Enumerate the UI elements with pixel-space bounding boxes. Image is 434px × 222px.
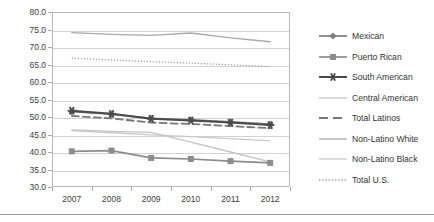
series-non-latino-black	[72, 131, 270, 141]
legend-item-non-latino-white[interactable]: Non-Latino White	[318, 129, 434, 150]
legend-swatch-icon	[318, 174, 348, 186]
legend-item-central-american[interactable]: Central American	[318, 88, 434, 109]
legend-item-mexican[interactable]: Mexican	[318, 26, 434, 47]
series-line	[72, 130, 270, 162]
chart-legend: MexicanPuerto RicanSouth AmericanCentral…	[318, 26, 434, 190]
data-point-marker	[69, 148, 75, 154]
data-point-marker	[267, 160, 273, 166]
y-axis-tick-label: 60.0	[0, 78, 46, 87]
series-line	[72, 131, 270, 141]
legend-label: Puerto Rican	[352, 52, 402, 62]
y-axis-tick-label: 75.0	[0, 26, 46, 35]
x-axis-tick-label: 2010	[171, 195, 211, 204]
legend-label: Mexican	[352, 31, 384, 41]
y-axis-tick-label: 50.0	[0, 113, 46, 122]
legend-label: Total U.S.	[352, 175, 389, 185]
y-axis-tick-label: 30.0	[0, 183, 46, 192]
legend-label: Non-Latino Black	[352, 154, 417, 164]
x-axis-tick-label: 2007	[52, 195, 92, 204]
legend-label: South American	[352, 72, 413, 82]
x-axis-tick-label: 2011	[211, 195, 251, 204]
x-tick-mark	[92, 187, 93, 191]
legend-item-total-latinos[interactable]: Total Latinos	[318, 108, 434, 129]
legend-swatch-icon	[318, 30, 348, 42]
x-axis-tick-label: 2009	[131, 195, 171, 204]
chart-figure: 80.075.070.065.060.055.050.045.040.035.0…	[0, 0, 434, 222]
legend-item-total-u-s-[interactable]: Total U.S.	[318, 170, 434, 191]
x-axis-tick-label: 2012	[250, 195, 290, 204]
x-tick-mark	[171, 187, 172, 191]
data-point-marker	[228, 158, 234, 164]
data-point-marker	[188, 156, 194, 162]
y-axis-tick-label: 65.0	[0, 61, 46, 70]
legend-swatch-icon	[318, 153, 348, 165]
legend-swatch-icon	[318, 133, 348, 145]
x-tick-mark	[211, 187, 212, 191]
y-axis-tick-label: 45.0	[0, 131, 46, 140]
y-axis-tick-label: 80.0	[0, 8, 46, 17]
y-axis-tick-label: 55.0	[0, 96, 46, 105]
series-canvas	[52, 12, 290, 187]
legend-swatch-icon	[318, 112, 348, 124]
x-tick-mark	[131, 187, 132, 191]
legend-label: Central American	[352, 93, 418, 103]
data-point-marker	[109, 148, 115, 154]
x-tick-mark	[290, 187, 291, 191]
x-axis-tick-label: 2008	[92, 195, 132, 204]
x-tick-mark	[250, 187, 251, 191]
chart-svg	[52, 12, 290, 187]
legend-swatch-icon	[318, 51, 348, 63]
series-non-latino-white	[72, 33, 270, 42]
y-axis-tick-label: 35.0	[0, 166, 46, 175]
legend-item-south-american[interactable]: South American	[318, 67, 434, 88]
legend-item-non-latino-black[interactable]: Non-Latino Black	[318, 149, 434, 170]
legend-label: Total Latinos	[352, 113, 400, 123]
y-axis-tick-label: 70.0	[0, 43, 46, 52]
legend-swatch-icon	[318, 92, 348, 104]
series-total-u-s-	[72, 58, 270, 66]
series-central-american	[72, 130, 270, 162]
legend-swatch-icon	[318, 71, 348, 83]
series-line	[72, 151, 270, 163]
bottom-divider	[0, 214, 434, 215]
series-puerto-rican	[69, 148, 273, 166]
x-tick-mark	[52, 187, 53, 191]
y-axis-tick-label: 40.0	[0, 148, 46, 157]
legend-label: Non-Latino White	[352, 134, 418, 144]
series-line	[72, 58, 270, 66]
data-point-marker	[148, 155, 154, 161]
legend-item-puerto-rican[interactable]: Puerto Rican	[318, 47, 434, 68]
series-line	[72, 33, 270, 42]
